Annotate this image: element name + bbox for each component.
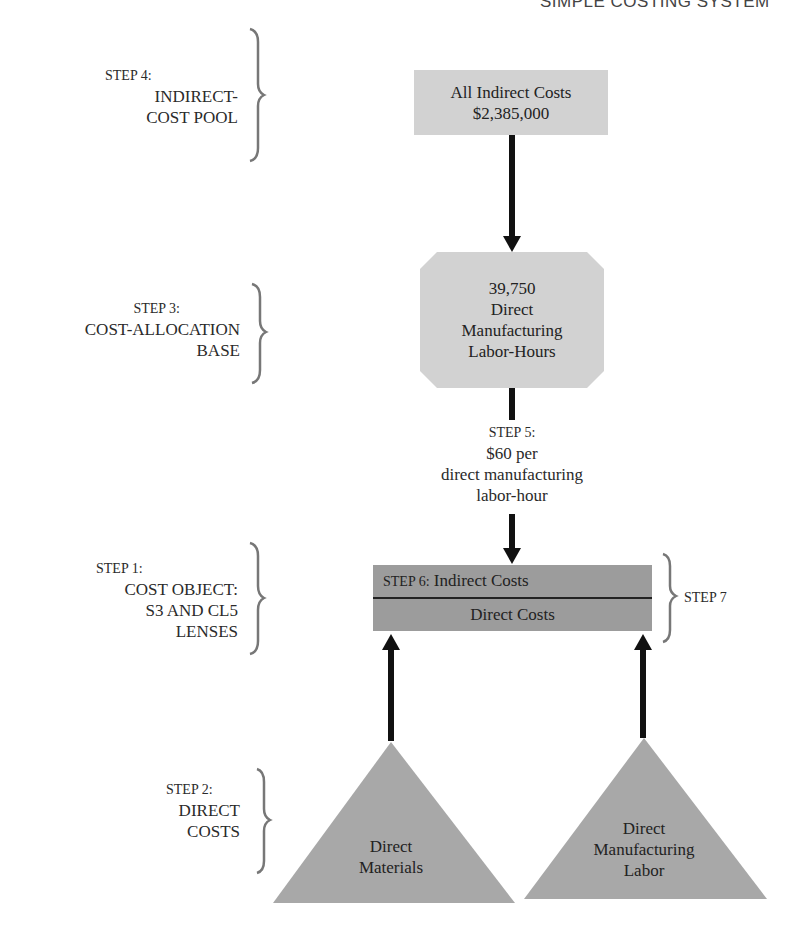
step1-line: LENSES bbox=[60, 621, 238, 642]
step5-line: direct manufacturing bbox=[402, 464, 622, 485]
indirect-pool-amount: $2,385,000 bbox=[473, 103, 550, 124]
step1-line: S3 AND CL5 bbox=[60, 600, 238, 621]
allocation-base-line: Labor-Hours bbox=[468, 341, 555, 362]
direct-materials-line: Direct bbox=[331, 836, 451, 857]
direct-materials-line: Materials bbox=[331, 857, 451, 878]
step3-line: BASE bbox=[20, 340, 240, 361]
step5-line: labor-hour bbox=[402, 485, 622, 506]
step7-number: STEP 7 bbox=[684, 590, 727, 605]
step4-line: INDIRECT- bbox=[105, 86, 238, 107]
connector-base-to-rate bbox=[509, 388, 515, 420]
step3-label: STEP 3: COST-ALLOCATION BASE bbox=[20, 298, 240, 361]
direct-labor-line: Direct bbox=[574, 818, 714, 839]
direct-labor-label: Direct Manufacturing Labor bbox=[574, 818, 714, 881]
brace-icon bbox=[257, 769, 270, 873]
step2-number: STEP 2: bbox=[150, 779, 240, 800]
step2-label: STEP 2: DIRECT COSTS bbox=[150, 779, 240, 842]
indirect-cost-pool-box: All Indirect Costs $2,385,000 bbox=[414, 70, 608, 135]
step2-line: DIRECT bbox=[150, 800, 240, 821]
brace-icon bbox=[252, 284, 266, 383]
step1-line: COST OBJECT: bbox=[60, 579, 238, 600]
allocation-base-text: 39,750 Direct Manufacturing Labor-Hours bbox=[420, 262, 604, 378]
step1-number: STEP 1: bbox=[60, 558, 238, 579]
direct-costs-row: Direct Costs bbox=[373, 599, 652, 631]
arrow-labor-to-cost-object bbox=[634, 634, 652, 738]
step3-number: STEP 3: bbox=[20, 298, 240, 319]
allocation-base-hours: 39,750 bbox=[489, 278, 536, 299]
direct-labor-line: Labor bbox=[574, 860, 714, 881]
step6-number: STEP 6: bbox=[383, 574, 430, 589]
step4-label: STEP 4: INDIRECT- COST POOL bbox=[105, 65, 238, 128]
brace-icon bbox=[250, 543, 264, 654]
step2-line: COSTS bbox=[150, 821, 240, 842]
brace-icon bbox=[663, 554, 676, 642]
allocation-base-line: Direct bbox=[491, 299, 533, 320]
step4-number: STEP 4: bbox=[105, 65, 238, 86]
step5-rate-label: STEP 5: $60 per direct manufacturing lab… bbox=[402, 422, 622, 506]
indirect-costs-label: Indirect Costs bbox=[434, 571, 529, 590]
arrow-rate-to-cost-object bbox=[503, 514, 521, 564]
direct-materials-label: Direct Materials bbox=[331, 836, 451, 878]
indirect-pool-title: All Indirect Costs bbox=[451, 82, 572, 103]
step4-line: COST POOL bbox=[105, 107, 238, 128]
direct-materials-triangle bbox=[273, 742, 515, 903]
step7-label: STEP 7 bbox=[684, 586, 727, 608]
step3-line: COST-ALLOCATION bbox=[20, 319, 240, 340]
cost-object-box: STEP 6: Indirect Costs Direct Costs bbox=[373, 565, 652, 631]
arrow-materials-to-cost-object bbox=[382, 634, 400, 741]
step5-number: STEP 5: bbox=[402, 422, 622, 443]
indirect-costs-row: STEP 6: Indirect Costs bbox=[373, 565, 652, 599]
step1-label: STEP 1: COST OBJECT: S3 AND CL5 LENSES bbox=[60, 558, 238, 642]
allocation-base-line: Manufacturing bbox=[461, 320, 562, 341]
brace-icon bbox=[250, 29, 264, 161]
step5-rate: $60 per bbox=[402, 443, 622, 464]
direct-labor-line: Manufacturing bbox=[574, 839, 714, 860]
